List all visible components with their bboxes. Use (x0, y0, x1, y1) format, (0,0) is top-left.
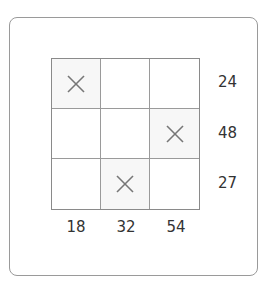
grid-cell-r3-c3[interactable] (150, 159, 199, 209)
grid-cell-r3-c1[interactable] (52, 159, 101, 209)
column-clue: 18 (51, 218, 101, 236)
puzzle-grid (51, 58, 200, 210)
grid-cell-r1-c1[interactable] (52, 59, 101, 109)
column-clue: 54 (151, 218, 201, 236)
x-mark-icon (166, 125, 184, 143)
grid-cell-r1-c3[interactable] (150, 59, 199, 109)
grid-cell-r3-c2[interactable] (101, 159, 150, 209)
grid-cell-r2-c3[interactable] (150, 109, 199, 159)
grid-cell-r2-c2[interactable] (101, 109, 150, 159)
x-mark-icon (116, 175, 134, 193)
row-clue: 24 (218, 73, 248, 91)
row-clue: 48 (218, 124, 248, 142)
grid-cell-r1-c2[interactable] (101, 59, 150, 109)
grid-cell-r2-c1[interactable] (52, 109, 101, 159)
column-clue: 32 (101, 218, 151, 236)
x-mark-icon (67, 75, 85, 93)
row-clue: 27 (218, 174, 248, 192)
